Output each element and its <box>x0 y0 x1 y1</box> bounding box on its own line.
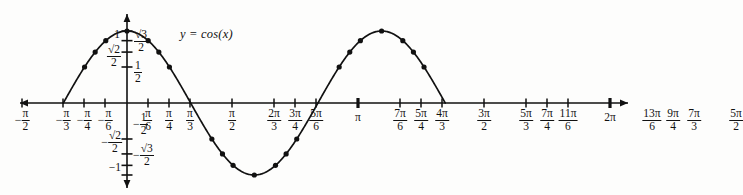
data-point <box>284 151 289 156</box>
x-tick-label-pi-over-4: π4 <box>165 108 173 132</box>
data-point <box>156 49 161 54</box>
x-tick-label-neg-pi-over-4: −π4 <box>77 108 92 132</box>
x-tick-label-neg-pi-over-2: −π2 <box>15 108 30 132</box>
x-tick-label-three-pi-over-2: 3π2 <box>477 108 491 132</box>
x-tick-label-seven-pi-over-3: 7π3 <box>687 108 701 132</box>
x-tick-label-five-pi-over-6: 5π6 <box>309 108 323 132</box>
data-point <box>358 38 363 43</box>
y-label-negative-sqrt2-over-2: − √2 2 <box>101 130 122 154</box>
data-point <box>273 163 278 168</box>
y-axis-arrow-up <box>124 14 131 22</box>
data-point <box>400 38 405 43</box>
x-tick-label-pi-over-3: π3 <box>186 108 194 132</box>
x-tick-label-two-pi-over-3: 2π3 <box>267 108 281 132</box>
y-label-negative-one: −1 <box>109 158 121 174</box>
y-label-negative-one-half: − 1 2 <box>133 112 148 136</box>
y-label-one: 1 <box>114 25 120 41</box>
x-tick-label-neg-pi-over-3: −π3 <box>56 108 71 132</box>
x-tick-label-pi: π <box>355 108 361 124</box>
x-tick-label-pi-over-2: π2 <box>228 108 236 132</box>
x-axis-arrow-right <box>620 100 628 107</box>
data-point <box>230 163 235 168</box>
x-tick-label-nine-pi-over-4: 9π4 <box>666 108 680 132</box>
y-label-sqrt2-over-2: √2 2 <box>107 44 121 68</box>
data-point <box>411 49 416 54</box>
data-point <box>252 172 257 177</box>
x-tick-label-three-pi-over-4: 3π4 <box>288 108 302 132</box>
x-axis-arrow-left <box>20 100 28 107</box>
x-tick-label-five-pi-over-3: 5π3 <box>519 108 533 132</box>
data-point <box>124 28 129 33</box>
x-tick-label-eleven-pi-over-6: 11π6 <box>559 108 578 132</box>
data-point <box>294 136 299 141</box>
x-tick-label-five-pi-over-4: 5π4 <box>414 108 428 132</box>
data-point <box>93 49 98 54</box>
data-point <box>421 64 426 69</box>
y-label-sqrt3-over-2: √3 2 <box>134 29 148 53</box>
x-tick-label-seven-pi-over-4: 7π4 <box>540 108 554 132</box>
data-point <box>220 151 225 156</box>
y-label-negative-sqrt3-over-2: − √3 2 <box>133 143 154 167</box>
data-point <box>167 64 172 69</box>
function-label: y = cos(x) <box>180 28 233 41</box>
x-tick-label-thirteen-pi-over-6: 13π6 <box>642 108 661 132</box>
y-axis-arrow-down <box>124 180 131 188</box>
y-label-one-half: 1 2 <box>134 60 142 84</box>
data-point <box>82 64 87 69</box>
data-point <box>337 64 342 69</box>
data-point <box>347 49 352 54</box>
x-tick-label-seven-pi-over-6: 7π6 <box>393 108 407 132</box>
x-tick-label-five-pi-over-2: 5π2 <box>729 108 743 132</box>
x-tick-label-two-pi: 2π <box>604 108 616 124</box>
x-tick-label-four-pi-over-3: 4π3 <box>435 108 449 132</box>
data-point <box>379 28 384 33</box>
data-point <box>209 136 214 141</box>
